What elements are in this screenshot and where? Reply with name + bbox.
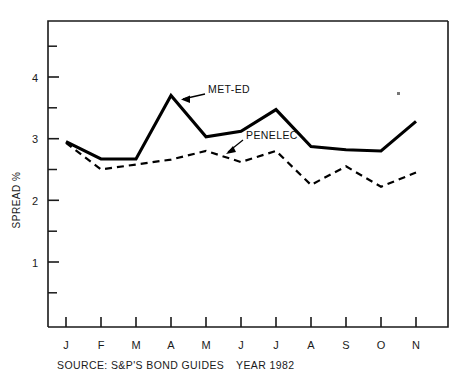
y-axis-title: SPREAD % xyxy=(11,172,22,229)
series-line-met-ed xyxy=(66,95,416,159)
year-label: YEAR 1982 xyxy=(236,359,294,371)
y-tick-label-4: 4 xyxy=(32,72,38,84)
chart-figure: 4 3 2 1 SPREAD % J F M A M xyxy=(0,0,464,379)
annotation-met-ed: MET-ED xyxy=(181,83,250,103)
x-tick-label-oct: O xyxy=(377,339,386,351)
x-tick-label-jul: J xyxy=(273,339,279,351)
source-note: SOURCE: S&P'S BOND GUIDES xyxy=(57,359,224,371)
y-axis-ticks xyxy=(48,46,59,293)
x-axis-ticks xyxy=(66,317,416,327)
x-tick-label-feb: F xyxy=(98,339,105,351)
x-tick-label-sep: S xyxy=(342,339,349,351)
x-tick-label-apr: A xyxy=(167,339,175,351)
x-tick-label-jun: J xyxy=(238,339,244,351)
annotation-label-penelec: PENELEC xyxy=(246,129,298,141)
x-tick-label-mar: M xyxy=(131,339,140,351)
y-axis-tick-labels: 4 3 2 1 xyxy=(32,72,38,269)
y-tick-label-1: 1 xyxy=(32,257,38,269)
x-axis-tick-labels: J F M A M J J A S O N xyxy=(63,339,420,351)
x-tick-label-aug: A xyxy=(307,339,315,351)
x-tick-label-nov: N xyxy=(412,339,420,351)
spread-line-chart: 4 3 2 1 SPREAD % J F M A M xyxy=(0,0,464,379)
annotation-label-met-ed: MET-ED xyxy=(208,83,250,95)
scan-speck-artifact xyxy=(397,92,400,95)
y-tick-label-2: 2 xyxy=(32,195,38,207)
x-tick-label-may: M xyxy=(201,339,210,351)
x-tick-label-jan: J xyxy=(63,339,69,351)
y-tick-label-3: 3 xyxy=(32,133,38,145)
plot-frame xyxy=(48,21,448,327)
